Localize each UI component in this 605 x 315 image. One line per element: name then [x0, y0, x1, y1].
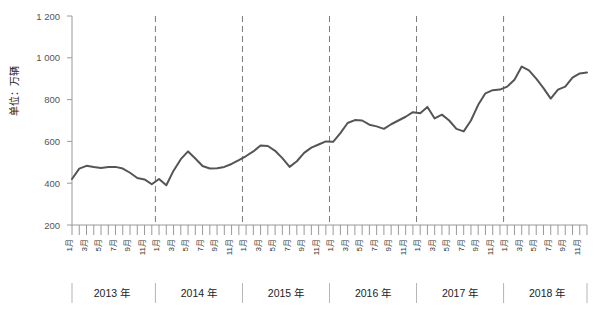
y-tick-label: 800	[44, 94, 60, 105]
x-month-label: 3月	[167, 239, 176, 251]
x-month-label: 5月	[94, 239, 103, 251]
x-month-label: 9月	[558, 239, 567, 251]
x-month-label: 1月	[65, 239, 74, 251]
year-band: 2013 年2014 年2015 年2016 年2017 年2018 年	[72, 283, 587, 303]
y-axis-title: 单位：万辆	[8, 66, 20, 116]
x-axis-month-labels: 1月3月5月7月9月11月1月3月5月7月9月11月1月3月5月7月9月11月1…	[65, 239, 582, 255]
y-tick-label: 600	[44, 136, 60, 147]
y-tick-label: 1 000	[36, 52, 60, 63]
x-month-label: 11月	[486, 239, 495, 255]
year-label: 2016 年	[355, 287, 391, 299]
x-month-label: 11月	[312, 239, 321, 255]
year-label: 2014 年	[181, 287, 217, 299]
year-label: 2017 年	[442, 287, 478, 299]
x-month-label: 11月	[399, 239, 408, 255]
x-month-label: 7月	[196, 239, 205, 251]
x-month-label: 7月	[370, 239, 379, 251]
x-month-label: 5月	[181, 239, 190, 251]
x-month-label: 9月	[384, 239, 393, 251]
x-month-label: 1月	[239, 239, 248, 251]
x-month-label: 7月	[544, 239, 553, 251]
x-month-label: 5月	[268, 239, 277, 251]
x-month-label: 3月	[254, 239, 263, 251]
x-month-label: 11月	[573, 239, 582, 255]
line-chart: 单位：万辆 2004006008001 0001 200 1月3月5月7月9月1…	[0, 0, 605, 315]
x-axis-month-ticks	[72, 225, 587, 235]
y-axis-tick-labels: 2004006008001 0001 200	[36, 11, 72, 231]
year-separator-lines	[155, 16, 503, 225]
y-tick-label: 200	[44, 220, 60, 231]
x-month-label: 3月	[515, 239, 524, 251]
x-month-label: 11月	[138, 239, 147, 255]
y-axis-title-text: 单位：万辆	[8, 66, 20, 116]
chart-container: 单位：万辆 2004006008001 0001 200 1月3月5月7月9月1…	[0, 0, 605, 315]
x-month-label: 1月	[326, 239, 335, 251]
x-month-label: 7月	[283, 239, 292, 251]
x-month-label: 5月	[355, 239, 364, 251]
x-month-label: 9月	[471, 239, 480, 251]
y-tick-label: 1 200	[36, 11, 60, 22]
x-month-label: 1月	[413, 239, 422, 251]
x-month-label: 9月	[297, 239, 306, 251]
x-month-label: 5月	[442, 239, 451, 251]
y-tick-label: 400	[44, 178, 60, 189]
year-label: 2018 年	[529, 287, 565, 299]
x-month-label: 11月	[225, 239, 234, 255]
x-month-label: 9月	[123, 239, 132, 251]
x-month-label: 1月	[500, 239, 509, 251]
year-label: 2015 年	[268, 287, 304, 299]
x-month-label: 5月	[529, 239, 538, 251]
x-month-label: 7月	[457, 239, 466, 251]
x-month-label: 1月	[152, 239, 161, 251]
x-month-label: 9月	[210, 239, 219, 251]
year-label: 2013 年	[94, 287, 130, 299]
x-month-label: 3月	[80, 239, 89, 251]
x-month-label: 3月	[341, 239, 350, 251]
x-month-label: 3月	[428, 239, 437, 251]
x-month-label: 7月	[109, 239, 118, 251]
